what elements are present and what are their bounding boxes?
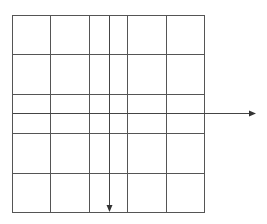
arrow-right-icon <box>249 111 256 117</box>
arrow-down-icon <box>107 205 113 212</box>
horizontal-arrow <box>13 111 257 117</box>
grid-diagram <box>0 0 267 224</box>
